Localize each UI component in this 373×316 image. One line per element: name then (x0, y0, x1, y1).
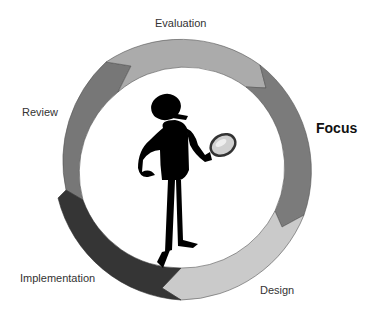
person-magnifier-icon (138, 91, 212, 268)
label-review: Review (22, 106, 58, 118)
cycle-diagram (0, 0, 373, 316)
segment-evaluation (106, 39, 266, 92)
label-design: Design (260, 284, 294, 296)
magnifying-glass-icon (207, 130, 240, 160)
label-evaluation: Evaluation (155, 17, 206, 29)
label-focus: Focus (316, 120, 357, 136)
segment-review (63, 62, 131, 200)
segment-focus (246, 65, 311, 227)
label-implementation: Implementation (20, 272, 95, 284)
